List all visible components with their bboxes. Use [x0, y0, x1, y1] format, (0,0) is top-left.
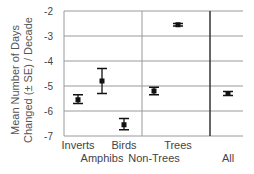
y-axis-label-line-2: Changed (± SE) / Decade — [22, 17, 34, 143]
y-tick-label: -2 — [44, 6, 53, 17]
error-bar-point — [149, 87, 159, 95]
error-bar-point — [173, 22, 183, 27]
error-bar-point — [73, 95, 83, 104]
mean-point — [152, 89, 157, 94]
y-axis-label: Mean Number of Days Changed (± SE) / Dec… — [9, 17, 34, 143]
data-marks — [73, 22, 233, 130]
mean-point — [226, 91, 231, 96]
category-label: Non-Trees — [128, 152, 180, 164]
category-label: Amphibs — [81, 152, 124, 164]
category-label: All — [222, 152, 234, 164]
chart: -2-3-4-5-6-7 InvertsAmphibsBirdsNon-Tree… — [0, 0, 254, 174]
mean-point — [176, 22, 181, 27]
y-tick-label: -4 — [44, 56, 53, 67]
category-label: Inverts — [61, 139, 95, 151]
y-tick-label: -7 — [44, 131, 53, 142]
category-label: Birds — [111, 139, 137, 151]
y-axis-label-line-1: Mean Number of Days — [9, 24, 21, 135]
mean-point — [122, 122, 127, 127]
gridlines — [64, 11, 243, 136]
y-tick-label: -5 — [44, 81, 53, 92]
mean-point — [100, 79, 105, 84]
y-tick-label: -6 — [44, 106, 53, 117]
mean-point — [76, 97, 81, 102]
y-tick-label: -3 — [44, 31, 53, 42]
error-bar-point — [223, 91, 233, 96]
group-separators — [142, 11, 210, 136]
y-tick-labels: -2-3-4-5-6-7 — [44, 6, 53, 142]
error-bar-point — [97, 69, 107, 94]
category-labels: InvertsAmphibsBirdsNon-TreesTreesAll — [61, 139, 234, 164]
category-label: Trees — [164, 139, 192, 151]
error-bar-point — [119, 119, 129, 130]
